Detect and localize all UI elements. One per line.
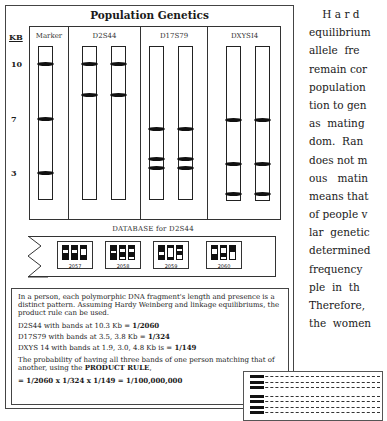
prose-line: Therefore, bbox=[309, 296, 387, 314]
prose-line: H a r d bbox=[309, 5, 387, 23]
gel-lane-d2s44-1 bbox=[82, 46, 97, 200]
prose-line: does not m bbox=[309, 151, 387, 169]
gel-lane-d2s44-2 bbox=[111, 46, 126, 200]
prose-line: determined bbox=[309, 241, 387, 259]
band bbox=[37, 117, 54, 121]
band bbox=[81, 62, 98, 66]
band bbox=[37, 171, 54, 175]
band bbox=[148, 127, 165, 131]
prose-line: the women bbox=[309, 314, 387, 332]
band bbox=[250, 381, 264, 384]
database-entry-id: 2060 bbox=[207, 263, 241, 269]
prose-line: population bbox=[309, 78, 387, 96]
band bbox=[110, 62, 127, 66]
lane-header-d17s79: D17S79 bbox=[141, 32, 207, 40]
band bbox=[225, 192, 242, 196]
database-label: DATABASE for D2S44 bbox=[28, 225, 278, 233]
kb-label-7: 7 bbox=[11, 114, 17, 124]
database-entry: 2060 bbox=[206, 241, 242, 269]
band bbox=[177, 157, 194, 161]
kb-label-10: 10 bbox=[11, 59, 22, 69]
prose-line: means that bbox=[309, 187, 387, 205]
explanation-intro: In a person, each polymorphic DNA fragme… bbox=[18, 293, 282, 318]
gel-lane-marker bbox=[38, 46, 53, 200]
database-entry: 2058 bbox=[105, 241, 141, 269]
band bbox=[254, 162, 271, 166]
band bbox=[177, 166, 194, 170]
probability-line-d17s79: D17S79 with bands at 3.5, 3.8 Kb = 1/324 bbox=[18, 333, 282, 341]
database-entry: 2057 bbox=[57, 241, 93, 269]
band bbox=[254, 118, 271, 122]
band bbox=[250, 411, 264, 414]
body-text-column: H a r d equilibrium allele fre remain co… bbox=[309, 5, 387, 332]
prose-line: allele fre bbox=[309, 41, 387, 59]
database-entry: 2059 bbox=[153, 241, 189, 269]
band bbox=[225, 162, 242, 166]
gel-lane-d17s79-2 bbox=[178, 46, 193, 200]
band bbox=[250, 395, 264, 398]
prose-line: remain cor bbox=[309, 60, 387, 78]
gel-lane-dxys14-1 bbox=[226, 46, 241, 201]
band bbox=[250, 386, 264, 389]
figure-title: Population Genetics bbox=[5, 9, 294, 21]
kb-axis-header: KB bbox=[9, 32, 23, 42]
gel-divider bbox=[68, 26, 69, 220]
torn-edge-icon bbox=[28, 236, 48, 278]
prose-line: ous matin bbox=[309, 169, 387, 187]
prose-line: dom. Ran bbox=[309, 132, 387, 150]
band bbox=[250, 375, 264, 378]
database-entry-id: 2058 bbox=[106, 263, 140, 269]
prose-line: ple in th bbox=[309, 278, 387, 296]
band bbox=[148, 157, 165, 161]
prose-line: tion to gen bbox=[309, 96, 387, 114]
kb-label-3: 3 bbox=[11, 168, 17, 178]
prose-line: of people v bbox=[309, 205, 387, 223]
probability-line-d2s44: D2S44 with bands at 10.3 Kb = 1/2060 bbox=[18, 322, 282, 330]
prose-line: as mating bbox=[309, 114, 387, 132]
band bbox=[177, 127, 194, 131]
database-entry-id: 2057 bbox=[58, 263, 92, 269]
lane-header-d2s44: D2S44 bbox=[69, 32, 140, 40]
band bbox=[250, 400, 264, 403]
secondary-gel-figure bbox=[243, 371, 383, 421]
database-entry-id: 2059 bbox=[154, 263, 188, 269]
gel-divider bbox=[140, 26, 141, 220]
band bbox=[81, 93, 98, 97]
lane-header-marker: Marker bbox=[30, 32, 68, 40]
probability-line-dxys14: DXYS 14 with bands at 1.9, 3.0, 4.8 Kb i… bbox=[18, 344, 282, 352]
gel-lane-dxys14-2 bbox=[255, 46, 270, 201]
lane-header-dxys14: DXYSI4 bbox=[208, 32, 281, 40]
band bbox=[225, 118, 242, 122]
prose-line: equilibrium bbox=[309, 23, 387, 41]
prose-line: frequency bbox=[309, 260, 387, 278]
band bbox=[250, 406, 264, 409]
band bbox=[148, 166, 165, 170]
band bbox=[254, 192, 271, 196]
band bbox=[37, 62, 54, 66]
prose-line: lar genetic bbox=[309, 223, 387, 241]
gel-lane-d17s79-1 bbox=[149, 46, 164, 200]
gel-divider bbox=[207, 26, 208, 220]
band bbox=[110, 93, 127, 97]
